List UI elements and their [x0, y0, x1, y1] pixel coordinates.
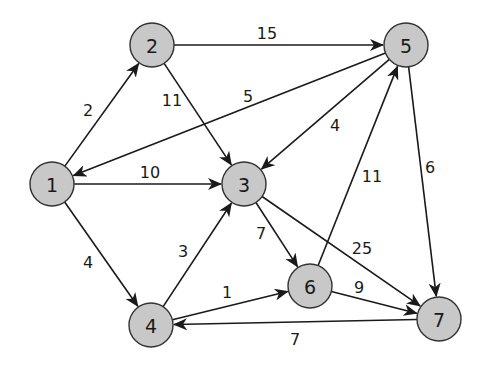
edge-weight-label: 7	[290, 330, 300, 349]
node-2: 2	[130, 23, 174, 67]
node-5: 5	[384, 23, 428, 67]
edge-weight-label: 2	[83, 101, 93, 120]
node-label: 1	[46, 174, 58, 196]
node-4: 4	[129, 303, 173, 347]
edge-weight-label: 10	[140, 163, 160, 182]
edge-weight-label: 4	[330, 116, 340, 135]
edge-weight-label: 1	[222, 283, 232, 302]
node-label: 7	[433, 309, 445, 331]
node-label: 4	[145, 315, 157, 337]
node-6: 6	[288, 264, 332, 308]
edge-1-to-4	[65, 202, 138, 306]
node-label: 3	[238, 174, 250, 196]
edge-2-to-3	[164, 63, 231, 164]
edge-weight-label: 11	[162, 91, 182, 110]
edge-weight-label: 4	[83, 253, 93, 272]
node-7: 7	[417, 297, 461, 341]
node-label: 2	[146, 35, 158, 57]
edge-weight-label: 15	[257, 24, 277, 43]
node-3: 3	[222, 162, 266, 206]
edge-1-to-2	[65, 64, 139, 166]
edge-5-to-3	[261, 59, 389, 169]
edge-weight-label: 3	[178, 242, 188, 261]
node-1: 1	[30, 162, 74, 206]
edge-weight-label: 5	[243, 87, 253, 106]
directed-weighted-graph: 21511510464371125197 1234567	[0, 0, 477, 368]
edge-7-to-4	[174, 319, 417, 324]
edge-6-to-5	[318, 66, 397, 265]
node-label: 6	[304, 276, 316, 298]
edge-5-to-1	[73, 53, 385, 176]
edge-5-to-7	[409, 67, 437, 296]
node-label: 5	[400, 35, 412, 57]
edge-weight-label: 6	[425, 158, 435, 177]
edge-3-to-7	[262, 197, 420, 306]
edge-weight-label: 9	[354, 278, 364, 297]
edge-weight-label: 25	[352, 239, 372, 258]
edge-weight-label: 11	[362, 167, 382, 186]
edge-weight-label: 7	[256, 224, 266, 243]
nodes-layer: 1234567	[30, 23, 461, 347]
